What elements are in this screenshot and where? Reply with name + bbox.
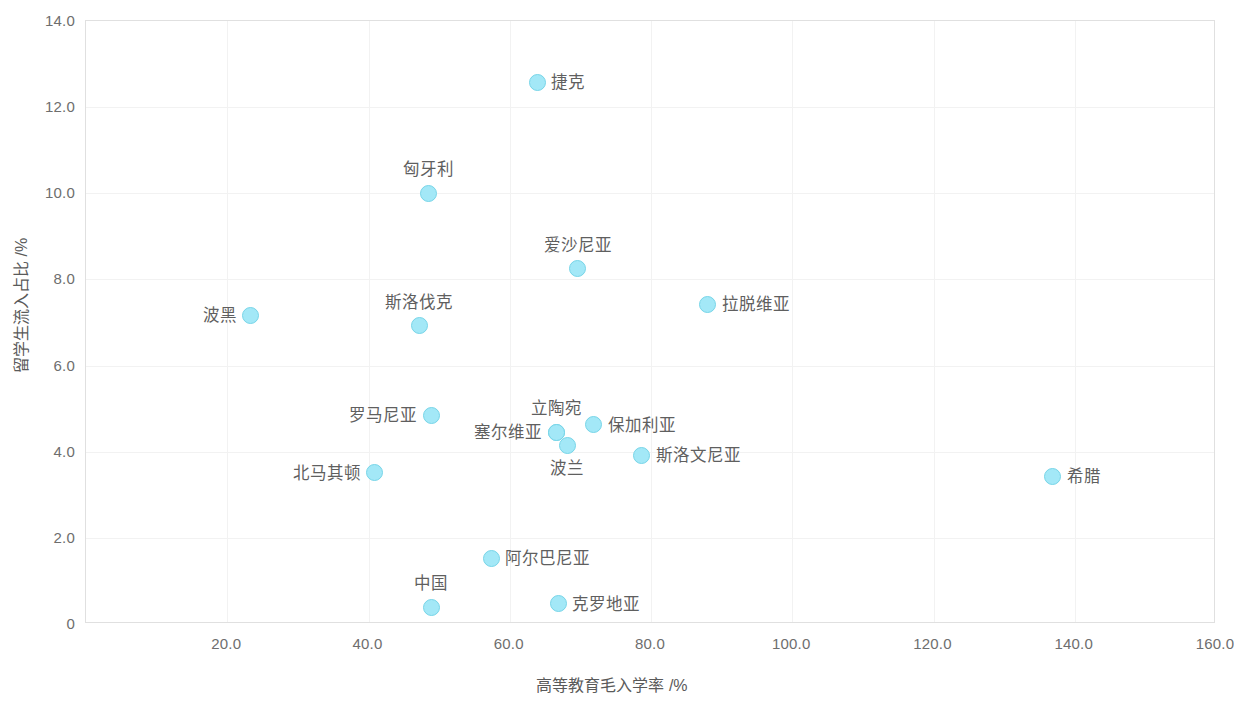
x-axis-title: 高等教育毛入学率 /% [0,672,1224,696]
gridline-horizontal [86,452,1214,453]
data-point-label: 匈牙利 [403,161,454,178]
data-point-label: 波黑 [203,307,237,324]
data-point[interactable] [423,599,440,616]
data-point-label: 罗马尼亚 [349,407,417,424]
data-point[interactable] [423,407,440,424]
x-tick-label: 100.0 [772,635,811,652]
data-point[interactable] [559,437,576,454]
y-axis-title: 留学生流入占比 /% [8,333,32,373]
data-point[interactable] [633,447,650,464]
data-point-label: 捷克 [551,74,585,91]
data-point-label: 中国 [414,575,448,592]
gridline-vertical [510,21,511,622]
x-tick-label: 140.0 [1054,635,1093,652]
data-point[interactable] [529,74,546,91]
gridline-horizontal [86,538,1214,539]
x-tick-label: 80.0 [635,635,665,652]
data-point-label: 克罗地亚 [572,595,640,612]
data-point[interactable] [483,550,500,567]
data-point-label: 保加利亚 [608,417,676,434]
gridline-horizontal [86,279,1214,280]
data-point-label: 立陶宛 [531,400,582,417]
data-point-label: 波兰 [550,460,584,477]
data-point[interactable] [1044,468,1061,485]
gridline-vertical [369,21,370,622]
y-tick-label: 4.0 [20,442,75,459]
y-tick-label: 0 [20,615,75,632]
gridline-horizontal [86,107,1214,108]
data-point-label: 北马其顿 [293,464,361,481]
y-tick-label: 10.0 [20,184,75,201]
data-point-label: 希腊 [1067,468,1101,485]
data-point[interactable] [550,595,567,612]
data-point-label: 斯洛伐克 [385,293,453,310]
gridline-vertical [1075,21,1076,622]
x-tick-label: 60.0 [494,635,524,652]
x-tick-label: 40.0 [353,635,383,652]
gridline-vertical [934,21,935,622]
data-point-label: 爱沙尼亚 [544,236,612,253]
gridline-horizontal [86,193,1214,194]
gridline-horizontal [86,366,1214,367]
x-tick-label: 160.0 [1196,635,1234,652]
data-point[interactable] [548,424,565,441]
data-point[interactable] [411,317,428,334]
data-point-label: 阿尔巴尼亚 [505,550,590,567]
y-tick-label: 14.0 [20,12,75,29]
data-point-label: 斯洛文尼亚 [656,447,741,464]
gridline-vertical [651,21,652,622]
x-tick-label: 120.0 [913,635,952,652]
data-point-label: 拉脱维亚 [722,296,790,313]
data-point[interactable] [420,185,437,202]
gridline-vertical [792,21,793,622]
y-tick-label: 2.0 [20,528,75,545]
y-tick-label: 12.0 [20,98,75,115]
data-point-label: 塞尔维亚 [474,424,542,441]
x-tick-label: 20.0 [211,635,241,652]
